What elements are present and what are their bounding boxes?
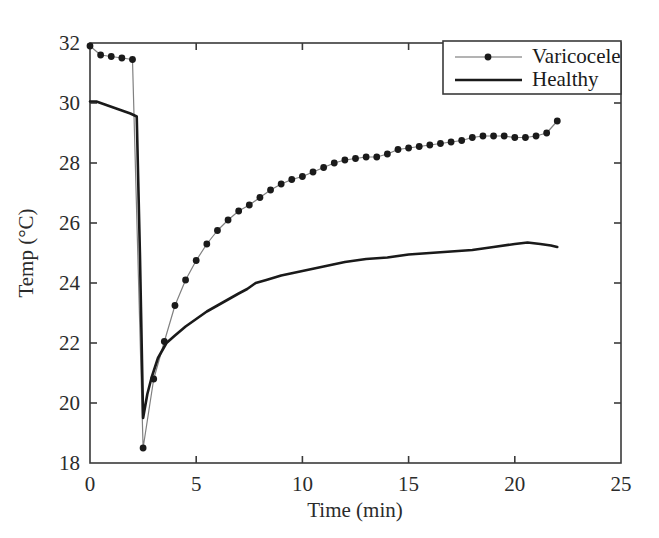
series-marker-varicocele xyxy=(363,154,370,161)
x-tick-label: 10 xyxy=(292,472,313,497)
series-marker-varicocele xyxy=(543,130,550,137)
legend-label-varicocele: Varicocele xyxy=(532,44,621,68)
series-marker-varicocele xyxy=(97,52,104,59)
series-marker-varicocele xyxy=(140,445,147,452)
series-marker-varicocele xyxy=(490,133,497,140)
x-tick-label: 20 xyxy=(504,472,525,497)
series-marker-varicocele xyxy=(511,134,518,141)
series-marker-varicocele xyxy=(426,142,433,149)
legend-label-healthy: Healthy xyxy=(532,67,599,91)
series-marker-varicocele xyxy=(533,133,540,140)
series-marker-varicocele xyxy=(352,155,359,162)
series-marker-varicocele xyxy=(246,202,253,209)
series-marker-varicocele xyxy=(554,118,561,125)
x-tick-label: 5 xyxy=(191,472,202,497)
series-line-healthy xyxy=(90,102,557,419)
y-tick-label: 20 xyxy=(59,391,80,416)
series-marker-varicocele xyxy=(267,187,274,194)
x-tick-label: 15 xyxy=(398,472,419,497)
series-marker-varicocele xyxy=(214,227,221,234)
y-tick-label: 18 xyxy=(59,451,80,476)
series-marker-varicocele xyxy=(522,134,529,141)
series-marker-varicocele xyxy=(172,302,179,309)
line-chart: Time (min) Temp (°C) Varicocele Healthy xyxy=(0,0,659,538)
series-marker-varicocele xyxy=(373,154,380,161)
x-axis-ticks xyxy=(196,43,515,463)
y-axis-title: Temp (°C) xyxy=(14,208,38,297)
series-marker-varicocele xyxy=(193,257,200,264)
series-marker-varicocele xyxy=(448,139,455,146)
y-tick-label: 26 xyxy=(59,211,80,236)
data-series-layer xyxy=(87,43,561,452)
x-tick-label: 25 xyxy=(611,472,632,497)
y-tick-label: 30 xyxy=(59,91,80,116)
series-marker-varicocele xyxy=(129,56,136,63)
series-marker-varicocele xyxy=(108,53,115,60)
y-tick-label: 22 xyxy=(59,331,80,356)
series-marker-varicocele xyxy=(331,160,338,167)
x-axis-title: Time (min) xyxy=(307,498,402,522)
series-marker-varicocele xyxy=(437,140,444,147)
series-marker-varicocele xyxy=(501,133,508,140)
series-marker-varicocele xyxy=(469,134,476,141)
series-marker-varicocele xyxy=(257,194,264,201)
chart-legend: Varicocele Healthy xyxy=(443,41,621,94)
series-marker-varicocele xyxy=(320,164,327,171)
y-tick-label: 32 xyxy=(59,31,80,56)
series-marker-varicocele xyxy=(299,173,306,180)
y-tick-label: 28 xyxy=(59,151,80,176)
series-marker-varicocele xyxy=(288,176,295,183)
series-marker-varicocele xyxy=(278,181,285,188)
series-marker-varicocele xyxy=(118,55,125,62)
series-marker-varicocele xyxy=(480,133,487,140)
series-marker-varicocele xyxy=(416,143,423,150)
series-marker-varicocele xyxy=(225,217,232,224)
series-marker-varicocele xyxy=(235,208,242,215)
series-marker-varicocele xyxy=(384,151,391,158)
x-tick-label: 0 xyxy=(85,472,96,497)
y-axis-ticks xyxy=(90,103,621,403)
y-tick-label: 24 xyxy=(59,271,80,296)
series-marker-varicocele xyxy=(87,43,94,50)
legend-swatch-marker-varicocele xyxy=(485,54,492,61)
series-marker-varicocele xyxy=(203,241,210,248)
series-marker-varicocele xyxy=(395,146,402,153)
series-marker-varicocele xyxy=(405,145,412,152)
series-marker-varicocele xyxy=(310,169,317,176)
series-marker-varicocele xyxy=(458,137,465,144)
series-marker-varicocele xyxy=(341,157,348,164)
series-marker-varicocele xyxy=(182,277,189,284)
plot-frame xyxy=(90,43,621,463)
chart-figure: Time (min) Temp (°C) Varicocele Healthy … xyxy=(0,0,659,538)
